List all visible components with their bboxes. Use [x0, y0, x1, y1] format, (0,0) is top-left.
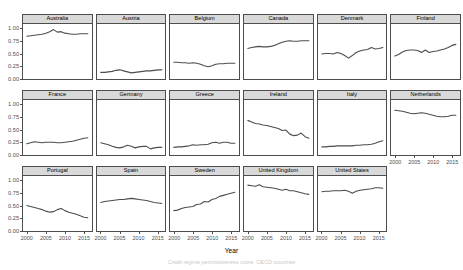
facet-strip-label: Italy	[317, 90, 388, 100]
x-tick-mark	[379, 232, 380, 234]
series-line	[27, 138, 88, 144]
facet-strip-text: Germany	[119, 92, 142, 98]
x-tick-label: 2000	[94, 235, 106, 241]
facet-plot-area	[96, 24, 167, 80]
x-axis-title: Year	[0, 247, 463, 254]
facet-plot-area	[390, 100, 461, 156]
facet-panel-germany: Germany	[96, 90, 167, 156]
facet-plot-area	[169, 100, 240, 156]
facet-strip-label: Spain	[96, 166, 167, 176]
x-tick-label: 2015	[225, 235, 237, 241]
y-tick-label: 0.00	[8, 228, 19, 234]
facet-strip-text: Spain	[124, 168, 138, 174]
facet-panel-spain: Spain	[96, 166, 167, 232]
x-tick-label: 2010	[59, 235, 71, 241]
x-tick-label: 2005	[40, 235, 52, 241]
y-tick-label: 0.75	[8, 38, 19, 44]
x-tick-label: 2000	[242, 235, 254, 241]
series-line	[100, 198, 161, 203]
facet-strip-text: Greece	[195, 92, 213, 98]
y-axis-row-0: 0.000.250.500.751.00	[0, 24, 22, 80]
y-tick-label: 1.00	[8, 101, 19, 107]
facet-strip-text: Canada	[269, 16, 289, 22]
facet-plot-area	[169, 176, 240, 232]
x-tick-mark	[321, 232, 322, 234]
x-tick-mark	[305, 232, 306, 234]
facet-panel-australia: Australia	[22, 14, 93, 80]
x-axis-bottom-3: 2000200520102015	[243, 232, 314, 246]
x-tick-mark	[433, 156, 434, 158]
facet-panel-united-states: United States	[317, 166, 388, 232]
y-axis-row-1: 0.000.250.500.751.00	[0, 100, 22, 156]
y-tick-mark	[20, 155, 22, 156]
series-line	[248, 120, 309, 138]
facet-strip-text: United States	[335, 168, 369, 174]
x-tick-mark	[193, 232, 194, 234]
series-line	[321, 141, 382, 147]
x-tick-label: 2010	[354, 235, 366, 241]
x-tick-label: 2005	[335, 235, 347, 241]
facet-panel-finland: Finland	[390, 14, 461, 80]
x-tick-label: 2015	[152, 235, 164, 241]
facet-panel-belgium: Belgium	[169, 14, 240, 80]
facet-plot-area	[243, 24, 314, 80]
facet-plot-area	[317, 100, 388, 156]
x-tick-mark	[286, 232, 287, 234]
series-line	[174, 62, 235, 67]
facet-panel-italy: Italy	[317, 90, 388, 156]
x-tick-label: 2010	[280, 235, 292, 241]
x-axis-bottom-2: 2000200520102015	[169, 232, 240, 246]
facet-strip-text: Belgium	[195, 16, 215, 22]
x-tick-label: 2015	[446, 159, 458, 165]
x-axis-bottom-0: 2000200520102015	[22, 232, 93, 246]
facet-plot-area	[96, 176, 167, 232]
y-tick-label: 0.25	[8, 63, 19, 69]
x-tick-label: 2000	[21, 235, 33, 241]
x-tick-mark	[27, 232, 28, 234]
x-tick-mark	[395, 156, 396, 158]
x-tick-label: 2010	[206, 235, 218, 241]
facet-strip-label: France	[22, 90, 93, 100]
series-line	[395, 44, 456, 56]
facet-strip-label: Germany	[96, 90, 167, 100]
series-line	[395, 110, 456, 117]
facet-panel-ireland: Ireland	[243, 90, 314, 156]
x-tick-label: 2000	[168, 235, 180, 241]
series-line	[248, 41, 309, 49]
x-tick-mark	[248, 232, 249, 234]
y-tick-label: 0.00	[8, 152, 19, 158]
x-tick-mark	[360, 232, 361, 234]
facet-plot-area	[390, 24, 461, 80]
x-tick-mark	[100, 232, 101, 234]
facet-plot-area	[22, 24, 93, 80]
facet-strip-label: United Kingdom	[243, 166, 314, 176]
y-tick-label: 1.00	[8, 25, 19, 31]
y-tick-mark	[20, 142, 22, 143]
series-line	[174, 192, 235, 210]
facet-strip-label: Portugal	[22, 166, 93, 176]
facet-strip-text: Australia	[46, 16, 68, 22]
facet-plot-area	[22, 176, 93, 232]
facet-strip-label: Ireland	[243, 90, 314, 100]
facet-strip-text: Sweden	[195, 168, 215, 174]
facet-strip-text: Denmark	[341, 16, 364, 22]
facet-strip-text: United Kingdom	[258, 168, 298, 174]
facet-strip-text: France	[49, 92, 66, 98]
facet-strip-label: Sweden	[169, 166, 240, 176]
x-tick-mark	[414, 156, 415, 158]
x-tick-label: 2000	[389, 159, 401, 165]
y-tick-label: 0.50	[8, 127, 19, 133]
facet-panel-france: France	[22, 90, 93, 156]
y-tick-label: 0.50	[8, 51, 19, 57]
x-tick-label: 2015	[373, 235, 385, 241]
x-tick-mark	[452, 156, 453, 158]
facet-strip-text: Italy	[347, 92, 357, 98]
x-tick-label: 2005	[187, 235, 199, 241]
y-axis-row-2: 0.000.250.500.751.00	[0, 176, 22, 232]
facet-strip-label: Belgium	[169, 14, 240, 24]
y-tick-mark	[20, 41, 22, 42]
facet-plot-area	[243, 176, 314, 232]
series-line	[248, 185, 309, 195]
series-line	[321, 47, 382, 58]
facet-strip-text: Finland	[416, 16, 434, 22]
